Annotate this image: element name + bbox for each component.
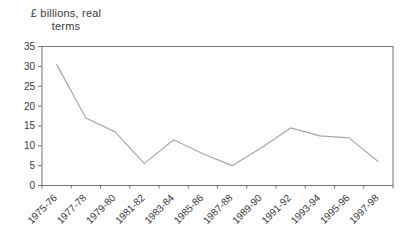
y-axis-tick-label: 15 <box>24 120 36 131</box>
x-axis-category-label: 1985-86 <box>172 192 206 226</box>
x-axis-category-label: 1989-90 <box>230 192 264 226</box>
x-axis-category-label: 1995-96 <box>318 192 352 226</box>
y-axis-tick-label: 0 <box>29 180 35 191</box>
y-axis-tick-label: 25 <box>24 81 36 92</box>
plot-area-border <box>42 47 393 186</box>
x-axis-category-label: 1997-98 <box>347 192 381 226</box>
x-axis-category-label: 1979-80 <box>84 192 118 226</box>
x-axis-category-label: 1993-94 <box>289 192 323 226</box>
y-axis-tick-label: 30 <box>24 61 36 72</box>
chart-figure: £ billions, real terms 05101520253035197… <box>0 0 410 243</box>
x-axis-category-label: 1975-76 <box>25 192 59 226</box>
x-axis-category-label: 1991-92 <box>259 192 293 226</box>
x-axis-category-label: 1987-88 <box>201 192 235 226</box>
y-axis-tick-label: 10 <box>24 140 36 151</box>
x-axis-category-label: 1981-82 <box>113 192 147 226</box>
line-chart: 051015202530351975-761977-781979-801981-… <box>0 0 410 243</box>
data-line-series <box>57 64 379 165</box>
y-axis-tick-label: 35 <box>24 41 36 52</box>
x-axis-category-label: 1977-78 <box>55 192 89 226</box>
y-axis-tick-label: 20 <box>24 101 36 112</box>
x-axis-category-label: 1983-84 <box>142 192 176 226</box>
y-axis-tick-label: 5 <box>29 160 35 171</box>
